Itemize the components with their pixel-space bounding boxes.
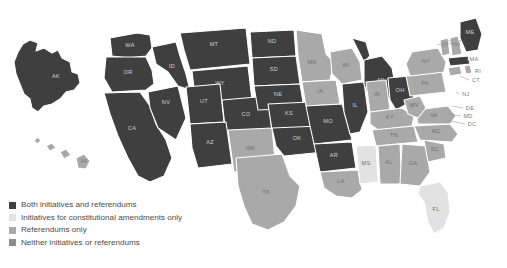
legend-swatch-both: [9, 202, 16, 209]
state-vt[interactable]: [440, 38, 450, 56]
legend-item-initiatives-constitutional[interactable]: Initiatives for constitutional amendment…: [9, 213, 206, 223]
state-tx[interactable]: [236, 154, 300, 230]
state-nc[interactable]: [414, 124, 458, 142]
state-az[interactable]: [190, 122, 232, 168]
state-hi[interactable]: [34, 137, 41, 144]
state-ms[interactable]: [356, 145, 378, 184]
state-mn[interactable]: [296, 30, 334, 82]
state-label-ma: MA: [470, 56, 479, 62]
state-ny[interactable]: [406, 48, 446, 76]
state-al[interactable]: [378, 144, 402, 184]
legend-label-both: Both initiatives and referendums: [21, 200, 137, 210]
state-ia[interactable]: [302, 80, 340, 106]
legend-swatch-initiatives-constitutional: [9, 214, 16, 221]
legend-item-referendums-only[interactable]: Referendums only: [9, 225, 206, 235]
state-label-nj: NJ: [462, 91, 469, 97]
state-ak[interactable]: [14, 40, 80, 112]
state-fl[interactable]: [418, 182, 450, 234]
legend-swatch-neither: [9, 239, 16, 246]
state-wi[interactable]: [330, 48, 362, 84]
state-label-dc: DC: [468, 121, 477, 127]
legend-swatch-referendums-only: [9, 227, 16, 234]
leader-line-de: [452, 106, 463, 108]
map-legend: Both initiatives and referendums Initiat…: [3, 195, 212, 254]
state-hi-part2[interactable]: [60, 149, 71, 159]
state-ks[interactable]: [268, 102, 312, 130]
state-in[interactable]: [366, 80, 390, 112]
legend-item-both[interactable]: Both initiatives and referendums: [9, 200, 206, 210]
leader-line-ct: [460, 76, 469, 80]
state-label-ct: CT: [472, 77, 480, 83]
state-hi-part1[interactable]: [46, 143, 56, 151]
state-ma[interactable]: [448, 56, 470, 66]
state-label-de: DE: [466, 105, 474, 111]
state-wa[interactable]: [110, 33, 152, 58]
state-sd[interactable]: [252, 56, 300, 86]
legend-label-initiatives-constitutional: Initiatives for constitutional amendment…: [21, 213, 182, 223]
state-ct[interactable]: [448, 66, 462, 76]
state-hi-part3[interactable]: [76, 154, 90, 169]
state-nd[interactable]: [250, 30, 296, 58]
state-tn[interactable]: [372, 126, 418, 146]
state-label-md: MD: [463, 113, 472, 119]
state-me[interactable]: [460, 18, 482, 52]
state-ar[interactable]: [314, 142, 356, 172]
leader-line-nj: [456, 92, 459, 94]
state-label-ri: RI: [475, 68, 481, 74]
state-mt[interactable]: [180, 28, 250, 70]
us-map-figure: WAORCANVIDMTWYUTCOAZNMNDSDNEKSOKTXMNIAMO…: [0, 0, 507, 268]
state-ut[interactable]: [186, 84, 224, 124]
state-ri[interactable]: [464, 65, 472, 74]
state-or[interactable]: [104, 57, 154, 92]
legend-label-neither: Neither initiatives or referendums: [21, 238, 140, 248]
state-la[interactable]: [320, 170, 362, 198]
legend-label-referendums-only: Referendums only: [21, 225, 87, 235]
legend-item-neither[interactable]: Neither initiatives or referendums: [9, 238, 206, 248]
state-sc[interactable]: [424, 140, 446, 162]
